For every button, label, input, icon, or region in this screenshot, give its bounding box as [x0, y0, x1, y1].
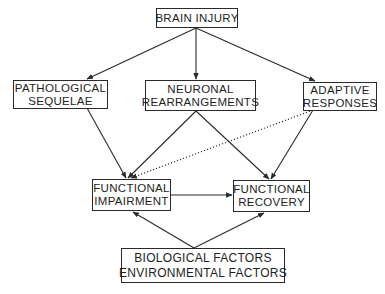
edge-adaptive-to-impairment-dotted [131, 110, 313, 178]
node-neuronal-line2: REARRANGEMENTS [142, 96, 259, 109]
edge-injury-to-pathological [87, 28, 196, 79]
edge-factors-to-recovery [194, 213, 264, 248]
node-neuronal-rearrangements: NEURONAL REARRANGEMENTS [145, 80, 256, 111]
node-neuronal-line1: NEURONAL [167, 83, 233, 96]
node-adaptive-responses: ADAPTIVE RESPONSES [303, 82, 377, 111]
diagram-canvas: BRAIN INJURY PATHOLOGICAL SEQUELAE NEURO… [0, 0, 385, 294]
node-factors-line1: BIOLOGICAL FACTORS [134, 251, 271, 266]
node-pathological-sequelae: PATHOLOGICAL SEQUELAE [13, 80, 108, 109]
node-pathological-line2: SEQUELAE [28, 95, 92, 108]
node-adaptive-line2: RESPONSES [303, 97, 377, 110]
edge-adaptive-to-recovery [271, 110, 313, 179]
edge-neuronal-to-impairment [128, 111, 196, 178]
node-impairment-line1: FUNCTIONAL [93, 182, 169, 195]
edge-injury-to-adaptive [196, 28, 315, 81]
node-recovery-line1: FUNCTIONAL [233, 183, 309, 196]
node-impairment-line2: IMPAIRMENT [94, 195, 168, 208]
node-brain-injury: BRAIN INJURY [156, 8, 238, 28]
node-functional-recovery: FUNCTIONAL RECOVERY [233, 180, 310, 212]
edge-neuronal-to-recovery [196, 111, 269, 179]
node-functional-impairment: FUNCTIONAL IMPAIRMENT [92, 179, 171, 211]
node-recovery-line2: RECOVERY [238, 196, 305, 209]
node-biological-environmental-factors: BIOLOGICAL FACTORS ENVIRONMENTAL FACTORS [121, 248, 285, 283]
edge-pathological-to-impairment [87, 108, 126, 178]
node-pathological-line1: PATHOLOGICAL [15, 82, 106, 95]
node-adaptive-line1: ADAPTIVE [310, 84, 369, 97]
node-factors-line2: ENVIRONMENTAL FACTORS [119, 266, 287, 281]
node-brain-injury-label: BRAIN INJURY [155, 12, 238, 25]
edge-factors-to-impairment [133, 212, 194, 248]
